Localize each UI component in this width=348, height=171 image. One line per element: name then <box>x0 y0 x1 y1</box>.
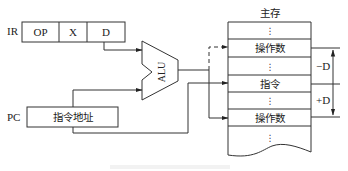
offset-dimensions: −D +D <box>311 48 340 117</box>
wire-d-to-alu <box>104 42 142 50</box>
memory-cell-ellipsis: ⋮ <box>266 26 275 36</box>
ir-label: IR <box>7 25 19 37</box>
memory-title: 主存 <box>260 7 281 19</box>
ir-register: IR OP X D <box>7 22 125 42</box>
wire-pc-to-alu <box>73 90 142 107</box>
addressing-diagram: IR OP X D PC 指令地址 ALU 主存 ⋮ 操作数 ⋮ <box>0 0 348 171</box>
memory-cell-ellipsis: ⋮ <box>266 133 275 143</box>
ir-field-d: D <box>102 26 110 38</box>
memory-cell-instruction: 指令 <box>260 78 281 90</box>
plus-d-label: +D <box>316 94 330 106</box>
memory-cell-ellipsis: ⋮ <box>266 96 275 106</box>
alu: ALU <box>142 41 178 100</box>
wire-alu-to-operand-plus <box>209 70 228 118</box>
alu-label: ALU <box>156 61 167 82</box>
ir-field-op: OP <box>33 26 47 38</box>
caption-placeholder <box>110 165 230 169</box>
memory-cell-operand-minus: 操作数 <box>255 42 286 54</box>
ir-field-x: X <box>69 26 77 38</box>
main-memory: 主存 ⋮ 操作数 ⋮ 指令 ⋮ 操作数 ⋮ <box>228 7 311 156</box>
wire-alu-to-operand-minus <box>209 47 228 70</box>
memory-cell-operand-plus: 操作数 <box>255 112 286 124</box>
pc-content: 指令地址 <box>53 111 94 123</box>
pc-register: PC 指令地址 <box>7 107 118 127</box>
pc-label: PC <box>7 111 20 123</box>
memory-cell-ellipsis: ⋮ <box>266 62 275 72</box>
minus-d-label: −D <box>316 60 330 72</box>
